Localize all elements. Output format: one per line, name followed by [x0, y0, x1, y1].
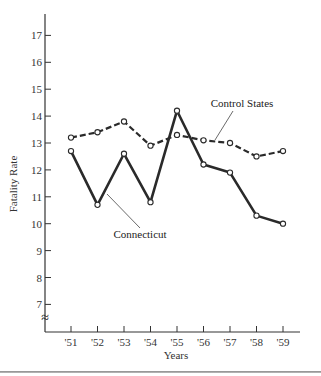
control-states-line: [71, 121, 283, 156]
data-point-marker: [68, 148, 73, 153]
connecticut-leader-line: [107, 194, 140, 228]
x-tick-label: '53: [118, 336, 131, 348]
data-point-marker: [201, 138, 206, 143]
y-tick-label: 7: [37, 298, 43, 310]
data-point-marker: [280, 221, 285, 226]
x-tick-label: '51: [65, 336, 78, 348]
x-tick-label: '54: [144, 336, 157, 348]
data-point-marker: [201, 162, 206, 167]
data-point-marker: [174, 132, 179, 137]
data-point-marker: [95, 202, 100, 207]
bottom-rule: [0, 371, 321, 373]
data-point-marker: [174, 108, 179, 113]
y-tick-label: 17: [31, 29, 43, 41]
x-tick-label: '56: [197, 336, 210, 348]
y-tick-label: 15: [31, 83, 43, 95]
data-point-marker: [254, 154, 259, 159]
y-tick-label: 14: [31, 110, 43, 122]
y-tick-label: 10: [31, 218, 43, 230]
control-states-leader-line: [215, 111, 233, 140]
line-chart: 7891011121314151617 '51'52'53'54'55'56'5…: [0, 0, 321, 376]
data-point-marker: [148, 200, 153, 205]
data-point-marker: [121, 119, 126, 124]
data-point-marker: [280, 148, 285, 153]
y-tick-label: 11: [31, 191, 42, 203]
y-tick-label: 13: [31, 137, 43, 149]
axis-break-symbol: ≈: [41, 310, 49, 325]
x-tick-label: '52: [91, 336, 104, 348]
connecticut-label: Connecticut: [113, 228, 166, 240]
y-axis: 7891011121314151617: [31, 14, 51, 332]
y-tick-label: 8: [37, 272, 43, 284]
connecticut-line: [71, 111, 283, 224]
x-axis-title: Years: [164, 349, 189, 361]
data-point-marker: [95, 130, 100, 135]
y-axis-title: Fatality Rate: [7, 156, 19, 213]
x-axis: '51'52'53'54'55'56'57'58'59: [45, 326, 300, 348]
annotations: [107, 111, 233, 228]
data-point-marker: [148, 143, 153, 148]
y-tick-label: 16: [31, 56, 43, 68]
data-point-marker: [227, 140, 232, 145]
y-tick-label: 9: [37, 245, 43, 257]
data-point-marker: [121, 151, 126, 156]
data-point-marker: [68, 135, 73, 140]
data-point-marker: [227, 170, 232, 175]
x-tick-label: '57: [224, 336, 237, 348]
data-point-marker: [254, 213, 259, 218]
x-tick-label: '58: [250, 336, 263, 348]
y-tick-label: 12: [31, 164, 42, 176]
control-states-label: Control States: [211, 97, 274, 109]
x-tick-label: '59: [277, 336, 290, 348]
series-layer: [68, 108, 285, 226]
x-tick-label: '55: [171, 336, 184, 348]
